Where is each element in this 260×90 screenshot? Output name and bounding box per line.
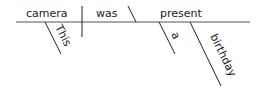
modifier-word-this: This [52,22,74,49]
complement-word: present [160,7,203,20]
modifier-word-a: a [168,30,183,42]
verb-word: was [96,7,118,20]
subject-word: camera [26,7,68,20]
modifier-word-birthday: birthday [207,32,239,80]
sentence-diagram: camera was present This a birthday [0,0,260,90]
complement-divider [128,6,136,22]
